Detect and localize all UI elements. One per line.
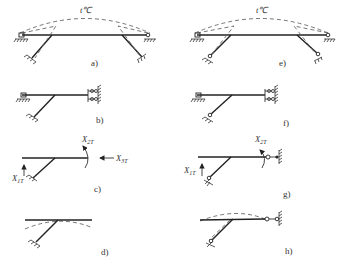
- temperature-label: t℃: [80, 5, 93, 15]
- panel-a: t℃ a): [14, 5, 156, 68]
- left-column: [32, 35, 52, 58]
- fixed-support-icon: [28, 240, 40, 248]
- column: [36, 220, 58, 242]
- panel-label-g: g): [283, 189, 291, 199]
- panel-g: X1T X2T g): [183, 134, 291, 199]
- pin-support-icon: [206, 239, 215, 247]
- temperature-deformed-arc: [195, 19, 328, 34]
- panel-label-b: b): [96, 115, 104, 125]
- right-column: [297, 35, 318, 54]
- pin-support-icon: [314, 52, 322, 64]
- column: [209, 157, 231, 178]
- panel-e: t℃ e): [190, 5, 335, 68]
- hinge-roller-support-icon: [265, 211, 282, 226]
- symbol-x1t: X1T: [183, 165, 196, 176]
- panel-d: d): [25, 220, 109, 257]
- panel-label-e: e): [279, 58, 286, 68]
- temperature-label: t℃: [256, 5, 269, 15]
- panel-label-h: h): [285, 246, 293, 256]
- fixed-support-icon: [137, 54, 146, 63]
- panel-c: X1T X2T X3T c): [11, 134, 128, 194]
- structural-frames-figure: t℃ a) t℃ e): [0, 0, 344, 271]
- right-column: [122, 35, 142, 57]
- moment-arrow-x2t: [260, 150, 265, 168]
- panel-f: f): [191, 85, 289, 128]
- deformed-shape: [25, 221, 93, 229]
- pin-support-icon: [202, 54, 213, 64]
- pin-support-icon: [204, 176, 213, 186]
- panel-b: b): [16, 85, 104, 125]
- hinge-roller-support-icon: [266, 149, 282, 164]
- column: [210, 95, 232, 115]
- column: [211, 219, 233, 241]
- temperature-deformed-arc: [20, 19, 150, 34]
- symbol-x1t: X1T: [11, 173, 24, 184]
- symbol-x2t: X2T: [254, 134, 267, 145]
- panel-label-f: f): [283, 118, 289, 128]
- panel-label-d: d): [101, 247, 109, 257]
- symbol-x2t: X2T: [81, 134, 94, 145]
- column: [34, 95, 55, 117]
- column: [33, 158, 55, 178]
- symbol-x3t: X3T: [115, 153, 128, 164]
- pin-support-icon: [202, 113, 213, 123]
- sliding-clamp-support-icon: [265, 85, 278, 104]
- sliding-clamp-support-icon: [88, 85, 101, 104]
- moment-arrow-x2t: [83, 146, 88, 168]
- panel-label-c: c): [94, 184, 101, 194]
- panel-h: h): [200, 211, 293, 256]
- panel-label-a: a): [91, 58, 98, 68]
